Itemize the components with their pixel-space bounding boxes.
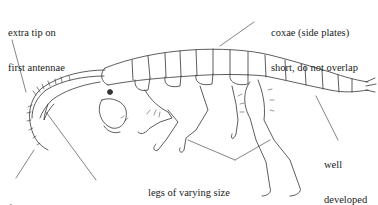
label-legs: legs of varying size and shape, some wit… [148, 164, 238, 205]
label-coxae: coxae (side plates) short, do not overla… [271, 4, 358, 85]
label-abdomen: well developed abdomen [324, 136, 367, 205]
coxae [135, 74, 248, 91]
head [99, 68, 126, 133]
label-extra-tip: extra tip on first antennae [8, 4, 65, 85]
label-first-antennae: first antennae longer than second [8, 180, 87, 205]
